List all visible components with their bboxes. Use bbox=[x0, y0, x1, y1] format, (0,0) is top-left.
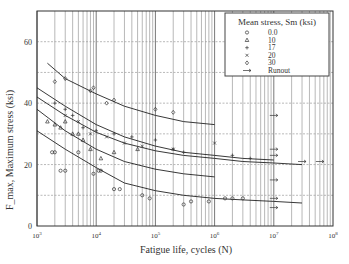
fit-curve bbox=[37, 97, 302, 165]
x-tick-label: 105 bbox=[151, 231, 161, 240]
marker-plus-icon bbox=[71, 114, 75, 118]
marker-triangle-icon bbox=[46, 120, 50, 123]
marker-circle-icon bbox=[223, 197, 226, 200]
y-axis-label: F_max, Maximum stress (ksi) bbox=[4, 90, 16, 210]
marker-plus-icon bbox=[53, 101, 57, 105]
marker-triangle-icon bbox=[99, 156, 103, 159]
y-tick-label: 0 bbox=[28, 222, 32, 231]
x-tick-label: 107 bbox=[269, 231, 279, 240]
fit-curves bbox=[37, 63, 302, 203]
legend-label: Runout bbox=[268, 66, 291, 75]
marker-plus-icon bbox=[182, 150, 186, 154]
marker-circle-icon bbox=[59, 169, 62, 172]
marker-plus-icon bbox=[154, 138, 158, 142]
fatigue-chart: 0204060 103104105106107108 Fatigue life,… bbox=[0, 0, 349, 264]
marker-circle-icon bbox=[118, 188, 121, 191]
x-tick-label: 106 bbox=[210, 231, 220, 240]
legend-title: Mean stress, Sm (ksi) bbox=[238, 17, 316, 27]
legend: Mean stress, Sm (ksi) 0.010172030Runout bbox=[225, 13, 329, 76]
data-points bbox=[46, 77, 324, 210]
marker-plus-icon bbox=[81, 126, 85, 130]
marker-plus-icon bbox=[63, 107, 67, 111]
x-tick-label: 103 bbox=[32, 231, 42, 240]
marker-plus-icon bbox=[231, 154, 235, 158]
marker-plus-icon bbox=[130, 135, 134, 139]
marker-plus-icon bbox=[248, 157, 252, 161]
x-tick-label: 104 bbox=[91, 231, 101, 240]
x-tick-label: 108 bbox=[328, 231, 338, 240]
y-tick-label: 20 bbox=[24, 161, 32, 170]
y-tick-label: 40 bbox=[24, 99, 32, 108]
fit-curve bbox=[37, 131, 302, 203]
x-axis-label: Fatigue life, cycles (N) bbox=[140, 244, 232, 256]
y-tick-label: 60 bbox=[24, 38, 32, 47]
x-tick-labels: 103104105106107108 bbox=[32, 231, 338, 240]
y-tick-labels: 0204060 bbox=[24, 38, 32, 231]
